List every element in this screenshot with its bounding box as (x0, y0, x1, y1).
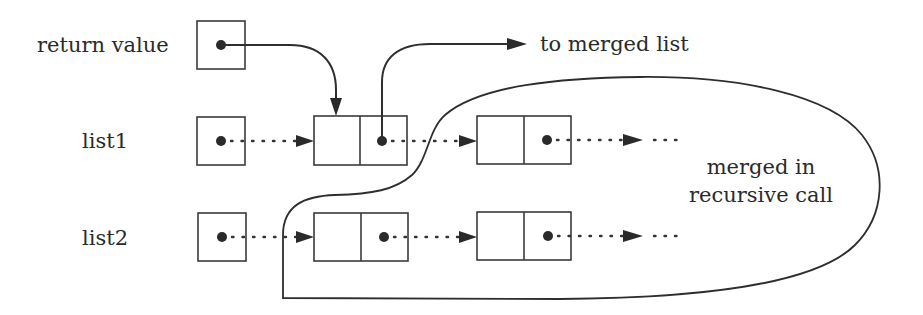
pointer-dot (379, 232, 389, 242)
label-list2: list2 (82, 226, 128, 250)
arrowhead-icon (507, 38, 527, 50)
label-return-value: return value (37, 33, 169, 57)
pointer-dot (216, 136, 226, 146)
arrowhead-icon (296, 135, 314, 147)
pointer-dot (542, 135, 552, 145)
label-to-merged-list: to merged list (540, 32, 689, 56)
linked-list-merge-diagram: return value list1 list2 to merged list … (0, 0, 923, 315)
arrowhead-icon (623, 230, 643, 242)
pointer-dot (217, 232, 227, 242)
arrowhead-icon (459, 231, 477, 243)
arrowhead-icon (330, 98, 342, 116)
arrowhead-icon (623, 134, 643, 146)
list2-cell (198, 213, 246, 261)
label-list1: list1 (82, 129, 128, 153)
pointer-dot (543, 231, 553, 241)
list1-cell (197, 117, 245, 165)
arrowhead-icon (459, 135, 477, 147)
loop-caption-line1: merged in (707, 155, 816, 179)
arrowhead-icon (296, 231, 314, 243)
loop-caption-line2: recursive call (689, 183, 833, 207)
